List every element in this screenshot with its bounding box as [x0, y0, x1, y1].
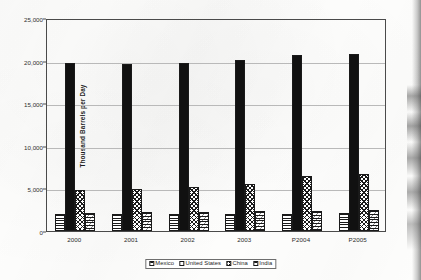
y-axis-tick-label: 0: [0, 229, 43, 236]
y-axis-tick-label: 10,000: [0, 143, 43, 150]
x-axis-tick-label: 2003: [237, 236, 251, 243]
legend-swatch-icon: [226, 261, 231, 266]
bar: [369, 210, 379, 231]
legend-swatch-icon: [149, 261, 154, 266]
legend-swatch-icon: [253, 261, 258, 266]
bar: [312, 211, 322, 231]
bar: [55, 214, 65, 231]
bar: [255, 211, 265, 231]
x-axis-tick-label: 2002: [181, 236, 195, 243]
bar: [245, 184, 255, 231]
bar: [189, 187, 199, 231]
y-axis-tick-label: 25,000: [0, 16, 43, 23]
x-axis-tick-label: P2004: [292, 236, 310, 243]
bar: [349, 54, 359, 231]
bar: [339, 213, 349, 231]
y-axis-tick-label: 5,000: [0, 186, 43, 193]
plot-area: Thousand Barrels per Day: [46, 19, 386, 232]
bar: [85, 213, 95, 231]
bar: [292, 55, 302, 231]
bar: [235, 60, 245, 231]
bar-group: [330, 20, 387, 231]
x-axis-tick-label: 2000: [67, 236, 81, 243]
y-axis-tick-label: 15,000: [0, 101, 43, 108]
bar: [199, 212, 209, 231]
y-axis-tick-label: 20,000: [0, 58, 43, 65]
bar-group: [160, 20, 217, 231]
bar: [179, 63, 189, 231]
legend-item: United States: [179, 261, 221, 267]
bar-group: [217, 20, 274, 231]
legend-label: United States: [185, 261, 220, 267]
bar: [169, 214, 179, 231]
bar: [132, 189, 142, 231]
bar: [75, 190, 85, 231]
bar: [112, 214, 122, 231]
legend-label: India: [259, 261, 272, 267]
legend-item: Mexico: [149, 261, 174, 267]
bar: [302, 176, 312, 231]
legend-swatch-icon: [179, 261, 184, 266]
bar: [142, 212, 152, 231]
bar: [282, 214, 292, 231]
legend-label: China: [232, 261, 247, 267]
chart-legend: MexicoUnited StatesChinaIndia: [145, 259, 276, 269]
bar-group: [274, 20, 331, 231]
bar-group: [104, 20, 161, 231]
bar: [65, 63, 75, 231]
bar-group: [47, 20, 104, 231]
legend-item: China: [226, 261, 248, 267]
bar: [359, 174, 369, 231]
bar-chart: 05,00010,00015,00020,00025,000 Thousand …: [0, 0, 421, 280]
bar: [225, 214, 235, 231]
x-axis-tick-label: 2001: [124, 236, 138, 243]
bar: [122, 64, 132, 231]
x-axis-tick-label: P2005: [348, 236, 366, 243]
legend-label: Mexico: [155, 261, 174, 267]
legend-item: India: [253, 261, 272, 267]
